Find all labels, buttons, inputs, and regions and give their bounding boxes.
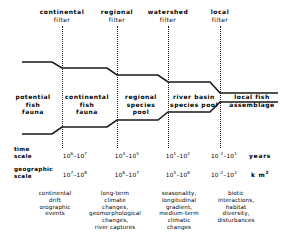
driver-note-regional-line-4: geomorphological <box>82 210 148 217</box>
pool-line-2: fish <box>56 101 118 109</box>
pool-line-2: species pool <box>161 101 227 109</box>
pool-line-1: continental <box>56 93 118 101</box>
geographic-scale-unit-text: k m <box>251 171 265 178</box>
geographic-scale-value-2-low-base: 10 <box>115 172 123 178</box>
driver-note-regional-line-3: changes, <box>82 204 148 211</box>
geographic-scale-unit-exp: 2 <box>265 170 269 175</box>
time-scale-value-3-low-exp: 1 <box>174 151 177 156</box>
geographic-scale-value-1-low-base: 10 <box>63 172 71 178</box>
geographic-scale-unit: k m2 <box>251 171 269 178</box>
pool-line-1: river basin <box>161 93 227 101</box>
geographic-scale-value-3-low-exp: 5 <box>174 170 177 175</box>
time-scale-value-4-low-exp: -2 <box>219 151 224 156</box>
geographic-scale-value-3-high-exp: 6 <box>187 170 190 175</box>
geographic-scale-value-3: 105–106 <box>155 172 201 178</box>
pool-label-potential-fish-fauna: potential fish fauna <box>2 93 64 116</box>
geographic-scale-value-2: 106–107 <box>104 172 150 178</box>
filter-diagram-figure: continental filter regional filter water… <box>0 0 282 240</box>
time-scale-value-1: 106–107 <box>52 153 98 159</box>
driver-note-regional-line-1: long-term <box>82 190 148 197</box>
geographic-scale-value-1-low-exp: 7 <box>71 170 74 175</box>
time-scale-value-3-high-exp: 2 <box>187 151 190 156</box>
geographic-scale-value-4: 10-2–102 <box>201 172 247 178</box>
pool-label-local-fish-assemblage: local fish assemblage <box>224 93 280 108</box>
time-scale-value-3-low-base: 10 <box>166 153 174 159</box>
pool-label-continental-fish-fauna: continental fish fauna <box>56 93 118 116</box>
time-scale-value-2: 104–105 <box>104 153 150 159</box>
pool-line-3: pool <box>110 108 172 116</box>
time-scale-value-1-low-base: 10 <box>63 153 71 159</box>
driver-note-regional-line-6: river captures <box>82 224 148 231</box>
driver-note-local-line-4: diversity, <box>203 210 269 217</box>
time-scale-value-4-low-base: 10 <box>211 153 219 159</box>
driver-note-local: biotic interactions, habitat diversity, … <box>203 190 269 224</box>
time-scale-value-2-low-base: 10 <box>115 153 123 159</box>
pool-line-2: assemblage <box>224 101 280 109</box>
driver-note-continental-line-3: orographic <box>22 204 88 211</box>
time-scale-value-1-low-exp: 6 <box>71 151 74 156</box>
geographic-scale-value-4-low-base: 10 <box>211 172 219 178</box>
time-scale-unit-text: years <box>249 152 271 159</box>
time-scale-value-2-high-exp: 5 <box>136 151 139 156</box>
time-scale-value-1-high-exp: 7 <box>84 151 87 156</box>
pool-line-2: fish <box>2 101 64 109</box>
time-scale-value-4-high-exp: 1 <box>234 151 237 156</box>
driver-note-continental-line-4: events <box>22 210 88 217</box>
geographic-scale-value-2-low-exp: 6 <box>123 170 126 175</box>
geographic-scale-value-4-high-exp: 2 <box>234 170 237 175</box>
driver-note-regional-line-2: climate <box>82 197 148 204</box>
driver-note-regional: long-term climate changes, geomorphologi… <box>82 190 148 231</box>
funnel-envelope <box>0 0 282 150</box>
driver-note-local-line-2: interactions, <box>203 197 269 204</box>
driver-note-continental: continental drift orographic events <box>22 190 88 217</box>
driver-note-local-line-5: disturbances <box>203 217 269 224</box>
geographic-scale-value-2-high-exp: 7 <box>136 170 139 175</box>
pool-line-3: fauna <box>56 108 118 116</box>
driver-note-local-line-3: habitat <box>203 204 269 211</box>
pool-line-1: potential <box>2 93 64 101</box>
pool-line-3: fauna <box>2 108 64 116</box>
time-scale-value-2-low-exp: 4 <box>123 151 126 156</box>
geographic-scale-value-1: 107–108 <box>52 172 98 178</box>
driver-note-continental-line-1: continental <box>22 190 88 197</box>
driver-note-watershed-line-6: changes <box>146 224 212 231</box>
pool-label-river-basin-species-pool: river basin species pool <box>161 93 227 108</box>
pool-line-1: local fish <box>224 93 280 101</box>
geographic-scale-value-1-high-exp: 8 <box>84 170 87 175</box>
driver-note-local-line-1: biotic <box>203 190 269 197</box>
driver-note-continental-line-2: drift <box>22 197 88 204</box>
time-scale-unit: years <box>249 152 271 159</box>
driver-note-regional-line-5: changes, <box>82 217 148 224</box>
time-scale-value-4: 10-2–101 <box>201 153 247 159</box>
time-scale-value-3: 101–102 <box>155 153 201 159</box>
time-scale-label-line-1: time <box>14 146 60 153</box>
geographic-scale-value-3-low-base: 10 <box>166 172 174 178</box>
geographic-scale-value-4-low-exp: -2 <box>219 170 224 175</box>
funnel-upper-line <box>22 62 278 93</box>
